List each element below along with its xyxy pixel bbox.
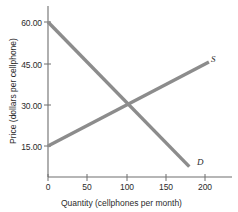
x-axis-title: Quantity (cellphones per month) [61,198,182,208]
demand-curve-label: D [197,157,204,167]
y-axis-title: Price (dollars per cellphone) [8,32,18,150]
demand-curve [48,22,189,167]
x-tick-label-200: 200 [190,182,220,192]
x-tick-label-100: 100 [112,182,142,192]
x-tick-label-0: 0 [33,182,63,192]
y-tick-label-60: 60.00 [6,18,42,28]
supply-demand-chart: 60.00 45.00 30.00 15.00 0 50 100 150 200… [0,0,238,212]
supply-curve-label: S [211,54,216,64]
x-tick-label-150: 150 [151,182,181,192]
supply-curve [48,62,209,146]
x-tick-label-50: 50 [72,182,102,192]
